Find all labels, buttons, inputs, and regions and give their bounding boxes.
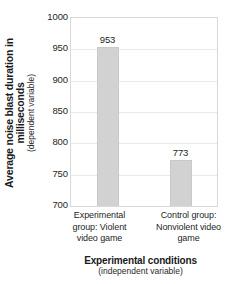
y-axis-title-main: Average noise blast duration in millisec…	[4, 15, 27, 211]
category-label-line: game	[145, 233, 232, 245]
x-axis-category-label: Experimentalgroup: Violentvideo game	[55, 210, 144, 252]
bar-chart-figure: Average noise blast duration in millisec…	[0, 0, 235, 284]
category-label-line: Control group:	[145, 210, 232, 222]
bar-value-label: 953	[88, 34, 128, 45]
category-label-line: group: Violent	[56, 222, 143, 234]
plot-area: 953773	[70, 17, 218, 207]
x-axis-category-label: Control group:Nonviolent videogame	[144, 210, 233, 252]
category-label-line: video game	[56, 233, 143, 245]
y-axis-title: Average noise blast duration in millisec…	[0, 15, 40, 211]
y-axis-tick-label: 700	[36, 199, 68, 210]
bar	[97, 47, 119, 206]
x-axis-title: Experimental conditions (independent var…	[48, 255, 233, 276]
y-axis-tick-label: 850	[36, 105, 68, 116]
y-axis-tick-label: 1000	[36, 11, 68, 22]
y-axis-tick-labels: 7007508008509009501000	[36, 11, 68, 209]
y-axis-tick-label: 750	[36, 168, 68, 179]
category-label-line: Nonviolent video	[145, 222, 232, 234]
x-axis-category-labels: Experimentalgroup: Violentvideo gameCont…	[55, 210, 233, 252]
y-axis-title-sub: (dependent variable)	[27, 74, 36, 152]
bars-layer: 953773	[71, 18, 217, 206]
y-axis-tick-label: 900	[36, 74, 68, 85]
bar	[170, 160, 192, 206]
x-axis-title-main: Experimental conditions	[48, 255, 233, 266]
category-label-line: Experimental	[56, 210, 143, 222]
bar-value-label: 773	[161, 147, 201, 158]
y-axis-tick-label: 800	[36, 136, 68, 147]
y-axis-tick-label: 950	[36, 42, 68, 53]
x-axis-title-sub: (independent variable)	[48, 266, 233, 276]
